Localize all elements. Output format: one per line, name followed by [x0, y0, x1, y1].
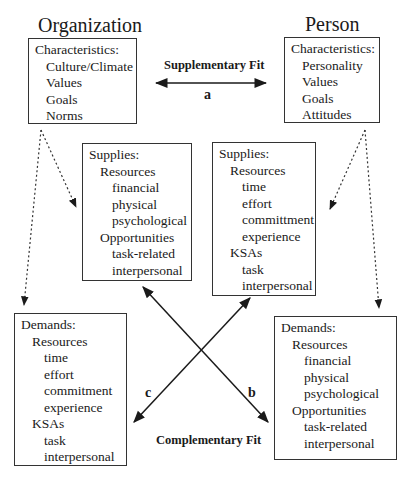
- org-to-supplies-dashed-arrow: [41, 130, 76, 207]
- org-to-demands-dashed-arrow: [24, 130, 41, 305]
- arrows-layer: [0, 0, 409, 482]
- person-to-demands-dashed-arrow: [365, 130, 379, 308]
- person-to-supplies-dashed-arrow: [330, 130, 365, 209]
- complementary-fit-arrow-c: [134, 298, 250, 422]
- complementary-fit-arrow-b: [143, 287, 268, 422]
